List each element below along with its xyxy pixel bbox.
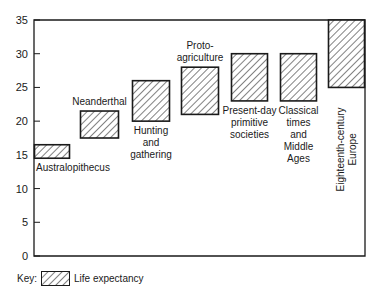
y-tick-label: 25	[16, 81, 28, 93]
bar-label: Present-dayprimitivesocieties	[223, 105, 277, 140]
y-tick-label: 0	[22, 250, 28, 262]
y-tick-label: 20	[16, 115, 28, 127]
bar-label: Huntingandgathering	[130, 125, 172, 160]
bar-group: Australopithecus	[35, 145, 110, 173]
hatched-swatch-icon	[41, 271, 70, 286]
bar-group: Eighteenth-centuryEurope	[329, 20, 365, 191]
life-expectancy-bar	[133, 81, 170, 121]
life-expectancy-chart: 05101520253035 AustralopithecusNeanderth…	[0, 0, 381, 291]
legend-label: Life expectancy	[74, 273, 144, 284]
bar-label: Neanderthal	[72, 96, 126, 107]
y-tick-label: 35	[16, 14, 28, 26]
bar-group: Proto-agriculture	[177, 40, 224, 114]
life-expectancy-bar	[232, 54, 268, 101]
life-expectancy-bar	[35, 145, 70, 158]
bar-group: Present-dayprimitivesocieties	[223, 54, 277, 140]
y-tick-label: 10	[16, 183, 28, 195]
life-expectancy-bar	[182, 67, 219, 114]
bar-label: Proto-agriculture	[177, 40, 224, 63]
life-expectancy-bar	[281, 54, 317, 101]
bar-label: ClassicaltimesandMiddleAges	[278, 105, 318, 164]
chart-bars: AustralopithecusNeanderthalHuntingandgat…	[35, 20, 365, 191]
bar-group: ClassicaltimesandMiddleAges	[278, 54, 318, 164]
y-tick-label: 5	[22, 216, 28, 228]
y-tick-label: 15	[16, 149, 28, 161]
life-expectancy-bar	[329, 20, 365, 87]
legend-key: Key: Life expectancy	[17, 271, 144, 286]
bar-group: Huntingandgathering	[130, 81, 172, 160]
bar-group: Neanderthal	[72, 96, 126, 138]
bar-label: Australopithecus	[36, 162, 110, 173]
bar-label: Eighteenth-centuryEurope	[335, 107, 358, 191]
legend-prefix: Key:	[17, 273, 37, 284]
y-tick-label: 30	[16, 48, 28, 60]
life-expectancy-bar	[81, 111, 119, 138]
